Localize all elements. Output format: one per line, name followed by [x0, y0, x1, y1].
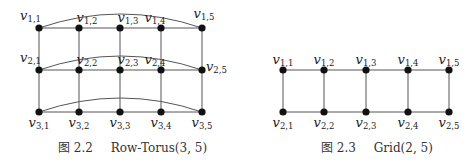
vertex-label: v2,2	[77, 52, 98, 68]
vertex-label: v1,4	[145, 10, 166, 26]
vertex-node	[116, 24, 123, 31]
vertex-label: v1,2	[314, 52, 335, 68]
vertex-label: v1,2	[77, 10, 98, 26]
vertex-node	[157, 108, 164, 115]
diagram-canvas: v1,1v1,2v1,3v1,4v1,5v2,1v2,2v2,3v2,4v2,5…	[0, 0, 470, 161]
vertex-node	[35, 108, 42, 115]
vertex-label: v3,1	[29, 115, 50, 131]
vertex-node	[362, 108, 369, 115]
vertex-node	[320, 108, 327, 115]
vertex-node	[35, 66, 42, 73]
vertex-label: v2,2	[314, 115, 335, 131]
vertex-label: v2,5	[439, 115, 460, 131]
vertex-label: v2,3	[356, 115, 377, 131]
vertex-label: v1,4	[398, 52, 419, 68]
vertex-label: v3,4	[151, 115, 172, 131]
vertex-label: v3,3	[110, 115, 131, 131]
vertex-label: v3,5	[192, 115, 213, 131]
caption-row-torus: 图 2.2 Row-Torus(3, 5)	[58, 141, 207, 155]
vertex-node	[404, 108, 411, 115]
vertex-node	[198, 108, 205, 115]
vertex-node	[445, 108, 452, 115]
vertex-label: v1,1	[20, 8, 41, 24]
caption-number: 图 2.3	[321, 141, 356, 155]
vertex-node	[75, 66, 82, 73]
vertex-label: v1,5	[439, 52, 460, 68]
caption-title: Grid(2, 5)	[374, 141, 433, 155]
vertex-label: v2,3	[118, 52, 139, 68]
vertex-node	[75, 108, 82, 115]
vertex-label: v1,3	[356, 52, 377, 68]
vertex-label: v2,4	[398, 115, 419, 131]
vertex-node	[116, 108, 123, 115]
vertex-node	[198, 24, 205, 31]
vertex-label: v1,1	[273, 52, 294, 68]
vertex-label: v2,4	[145, 52, 166, 68]
vertex-node	[35, 24, 42, 31]
vertex-label: v1,3	[118, 10, 139, 26]
caption-number: 图 2.2	[58, 141, 93, 155]
grid-graph: v1,1v1,2v1,3v1,4v1,5v2,1v2,2v2,3v2,4v2,5	[273, 52, 460, 131]
caption-title: Row-Torus(3, 5)	[111, 141, 207, 155]
row-torus-graph: v1,1v1,2v1,3v1,4v1,5v2,1v2,2v2,3v2,4v2,5…	[20, 6, 227, 131]
vertex-label: v3,2	[69, 115, 90, 131]
vertex-label: v2,5	[206, 59, 227, 75]
vertex-label: v2,1	[20, 50, 41, 66]
vertex-node	[198, 66, 205, 73]
vertex-label: v1,5	[194, 6, 215, 22]
vertex-node	[279, 108, 286, 115]
vertex-node	[75, 24, 82, 31]
vertex-node	[116, 66, 123, 73]
vertex-label: v2,1	[273, 115, 294, 131]
caption-grid: 图 2.3 Grid(2, 5)	[321, 141, 433, 155]
